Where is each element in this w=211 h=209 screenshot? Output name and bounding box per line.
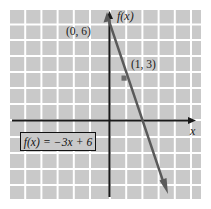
graph-figure: f(x) (0, 6) (1, 3) x f(x) = −3x + 6 — [0, 0, 211, 209]
equation-text: f(x) = −3x + 6 — [21, 133, 95, 150]
x-axis-label: x — [190, 125, 195, 137]
point-label-1-3: (1, 3) — [131, 59, 156, 71]
point-label-y-intercept: (0, 6) — [66, 26, 91, 38]
function-label: f(x) — [117, 10, 134, 22]
coordinate-plane — [0, 0, 211, 209]
equation-box: f(x) = −3x + 6 — [20, 132, 96, 151]
point-marker-1-3 — [122, 76, 127, 81]
